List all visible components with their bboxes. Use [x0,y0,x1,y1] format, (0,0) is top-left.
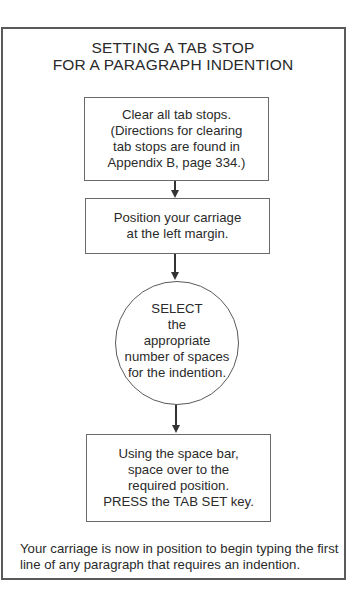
step-press-tab-set: Using the space bar, space over to the r… [86,434,271,522]
step-text-line: for the indention. [128,365,226,381]
title-line-2: FOR A PARAGRAPH INDENTION [0,56,346,73]
step-text-line: Clear all tab stops. [122,107,231,123]
step-text-line: the [168,317,186,333]
step-text-line: Appendix B, page 334.) [108,155,246,171]
arrow-down-icon [171,405,181,434]
footer-note: Your carriage is now in position to begi… [20,541,340,573]
step-text-line: SELECT [151,301,202,317]
diagram-title: SETTING A TAB STOP FOR A PARAGRAPH INDEN… [0,39,346,73]
step-text-line: (Directions for clearing [111,123,243,139]
step-text-line: number of spaces [125,349,230,365]
footer-line-2: line of any paragraph that requires an i… [20,557,340,573]
step-text-line: required position. [128,478,229,494]
step-text-line: tab stops are found in [113,139,240,155]
step-text-line: at the left margin. [127,226,229,242]
title-line-1: SETTING A TAB STOP [0,39,346,56]
step-text-line: Using the space bar, [118,446,238,462]
step-text-line: space over to the [128,462,229,478]
step-position-carriage: Position your carriage at the left margi… [85,198,270,254]
arrow-down-icon [170,254,180,281]
footer-line-1: Your carriage is now in position to begi… [20,541,340,557]
step-clear-tab-stops: Clear all tab stops. (Directions for cle… [84,97,269,181]
step-select-spaces: SELECT the appropriate number of spaces … [115,281,239,405]
step-text-line: PRESS the TAB SET key. [103,494,254,510]
step-text-line: Position your carriage [114,210,242,226]
step-text-line: appropriate [144,333,211,349]
arrow-down-icon [170,181,180,198]
